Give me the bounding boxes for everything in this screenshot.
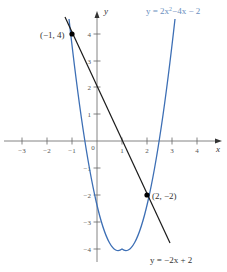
x-axis-arrow-icon [215, 139, 222, 144]
x-tick-label: 2 [145, 147, 149, 155]
y-axis-label: y [103, 6, 108, 16]
x-tick-label: 3 [170, 147, 174, 155]
point-label-1: (−1, 4) [40, 30, 65, 40]
y-tick-label: −3 [84, 219, 92, 227]
y-axis-arrow-icon [95, 11, 100, 18]
y-tick-label: −2 [84, 192, 92, 200]
origin-label: 0 [91, 144, 95, 152]
line-equation-label: y = −2x + 2 [150, 255, 192, 265]
y-tick-label: 3 [88, 58, 92, 66]
point-label-2: (2, −2) [152, 191, 177, 201]
x-axis-label: x [215, 144, 220, 154]
parabola-equation-label: y = 2x2−4x − 2 [146, 6, 200, 16]
x-tick-label: −3 [18, 147, 26, 155]
function-graph: −3 −2 −1 0 1 2 3 4 4 3 2 1 −1 −2 −3 −4 y… [0, 0, 227, 272]
x-tick-label: −1 [68, 147, 76, 155]
x-tick-label: 1 [120, 147, 124, 155]
axes: −3 −2 −1 0 1 2 3 4 4 3 2 1 −1 −2 −3 −4 y… [4, 6, 222, 262]
y-tick-label: −4 [84, 246, 92, 254]
y-tick-label: 2 [88, 84, 92, 92]
line-curve [65, 17, 170, 243]
intersection-point-1 [69, 31, 74, 36]
y-tick-label: 4 [88, 31, 92, 39]
intersection-point-2 [144, 192, 149, 197]
x-tick-label: 4 [195, 147, 199, 155]
x-tick-label: −2 [43, 147, 51, 155]
parabola-curve [69, 19, 175, 251]
y-tick-label: 1 [88, 111, 92, 119]
